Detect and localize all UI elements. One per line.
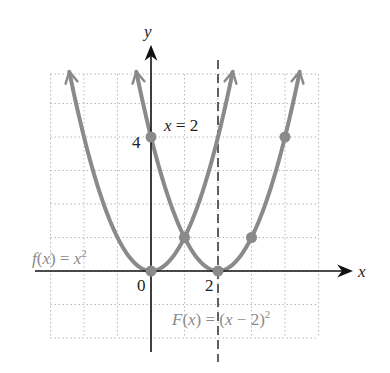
data-point [280,132,291,143]
asymptote-label: x = 2 [163,116,198,135]
data-point [213,266,224,277]
origin-label: 0 [137,276,146,295]
data-point [146,132,157,143]
data-point [146,266,157,277]
graph-figure: y x 0 2 4 x = 2 f(x) = x2 F(x) = (x − 2)… [0,0,390,373]
F-function-label: F(x) = (x − 2)2 [171,308,270,329]
grid [51,74,319,338]
data-point [246,232,257,243]
data-point [179,232,190,243]
f-function-label: f(x) = x2 [32,247,87,268]
y-axis-label: y [142,22,152,41]
tick-label-x-2: 2 [205,276,214,295]
x-axis-label: x [357,262,366,281]
tick-label-y-4: 4 [132,133,141,152]
